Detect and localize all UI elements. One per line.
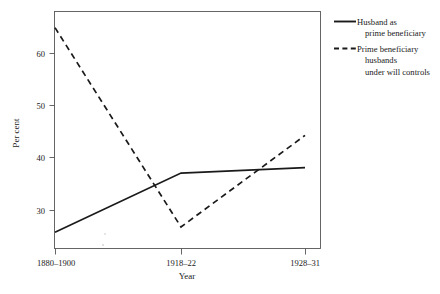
y-axis-title: Per cent: [11, 118, 21, 148]
y-tick-label-60: 60: [37, 49, 46, 59]
scan-speck: [102, 244, 104, 246]
series-line-husband-as-prime-beneficiary: [55, 168, 305, 233]
legend-label-husband-line-1: Husband as: [357, 17, 398, 27]
chart-canvas: 60 50 40 30 Per cent 1880–1900 1918–22 1…: [0, 0, 440, 294]
legend: Husband as prime beneficiary Prime benef…: [334, 17, 431, 77]
y-tick-label-50: 50: [37, 101, 46, 111]
legend-label-husband-line-2: prime beneficiary: [365, 28, 427, 38]
legend-label-will-controls-line-1: Prime beneficiary: [357, 44, 419, 54]
line-chart-figure: 60 50 40 30 Per cent 1880–1900 1918–22 1…: [0, 0, 440, 294]
x-axis-title: Year: [179, 271, 196, 281]
y-tick-label-30: 30: [37, 206, 46, 216]
legend-label-will-controls-line-3: under will controls: [365, 67, 431, 77]
y-tick-label-40: 40: [37, 153, 46, 163]
x-tick-label-1880-1900: 1880–1900: [37, 258, 75, 268]
x-tick-label-1928-31: 1928–31: [290, 258, 320, 268]
legend-label-will-controls-line-2: husbands: [365, 55, 398, 65]
series-line-prime-beneficiary-under-will-controls: [55, 28, 305, 227]
x-axis-ticks: [56, 249, 306, 255]
x-tick-label-1918-22: 1918–22: [166, 258, 196, 268]
y-axis-ticks: [50, 54, 55, 211]
scan-speck: [104, 233, 105, 234]
